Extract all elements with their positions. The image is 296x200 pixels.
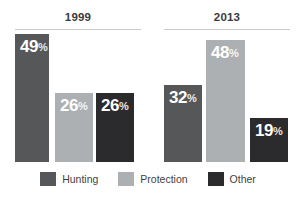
bar-label-2013-hunting: 32%	[169, 89, 197, 106]
bar-suffix-1999-protection: %	[78, 100, 88, 112]
legend-label-other: Other	[230, 173, 256, 185]
grouped-bar-chart: 1999 2013 49% 26% 26% 32%	[0, 0, 296, 200]
bar-1999-hunting[interactable]: 49%	[15, 34, 49, 162]
bar-label-2013-other: 19%	[255, 122, 283, 139]
chart-legend: Hunting Protection Other	[0, 172, 296, 186]
bar-2013-hunting[interactable]: 32%	[164, 85, 202, 162]
legend-swatch-hunting	[40, 172, 56, 186]
legend-swatch-protection	[118, 172, 134, 186]
bar-suffix-1999-hunting: %	[38, 41, 48, 53]
plot-area: 49% 26% 26% 32% 48% 19%	[0, 0, 296, 200]
legend-label-hunting: Hunting	[62, 173, 98, 185]
bar-suffix-2013-other: %	[273, 125, 283, 137]
bar-value-2013-other: 19	[255, 121, 273, 140]
legend-item-protection[interactable]: Protection	[118, 172, 187, 186]
bar-value-1999-other: 26	[101, 96, 119, 115]
bar-value-1999-hunting: 49	[20, 37, 38, 56]
legend-swatch-other	[208, 172, 224, 186]
bar-label-1999-protection: 26%	[60, 97, 88, 114]
bar-value-2013-protection: 48	[211, 43, 229, 62]
bar-1999-protection[interactable]: 26%	[55, 93, 93, 162]
legend-item-hunting[interactable]: Hunting	[40, 172, 98, 186]
bar-label-2013-protection: 48%	[211, 44, 239, 61]
bar-label-1999-other: 26%	[101, 97, 129, 114]
bar-label-1999-hunting: 49%	[20, 38, 48, 55]
bar-2013-protection[interactable]: 48%	[206, 40, 245, 162]
bar-suffix-2013-hunting: %	[187, 92, 197, 104]
bar-suffix-2013-protection: %	[229, 47, 239, 59]
legend-label-protection: Protection	[140, 173, 187, 185]
bar-suffix-1999-other: %	[119, 100, 129, 112]
legend-item-other[interactable]: Other	[208, 172, 256, 186]
bar-2013-other[interactable]: 19%	[250, 118, 288, 162]
bar-1999-other[interactable]: 26%	[96, 93, 134, 162]
bar-value-1999-protection: 26	[60, 96, 78, 115]
bar-value-2013-hunting: 32	[169, 88, 187, 107]
